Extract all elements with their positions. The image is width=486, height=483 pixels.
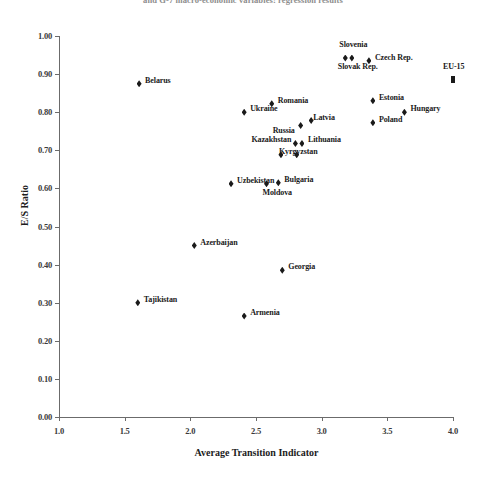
- x-tick-label: 1.0: [39, 426, 79, 436]
- scatter-plot: E/S Ratio Average Transition Indicator 0…: [0, 0, 486, 483]
- data-point: [349, 55, 354, 62]
- y-tick-label: 0.50: [26, 222, 52, 232]
- data-point: [280, 267, 285, 274]
- data-point-label: Moldova: [263, 188, 293, 197]
- y-tick-label: 0.40: [26, 260, 52, 270]
- data-point-label: Estonia: [379, 93, 404, 102]
- data-point-label: Slovak Rep.: [338, 62, 378, 71]
- y-tick-label: 1.00: [26, 31, 52, 41]
- data-point-label: Latvia: [313, 113, 335, 122]
- y-tick-mark: [55, 112, 59, 113]
- y-tick-label: 0.80: [26, 107, 52, 117]
- data-point: [370, 119, 375, 126]
- data-point-label: Romania: [278, 96, 308, 105]
- data-point-label: Bulgaria: [284, 175, 313, 184]
- y-tick-mark: [55, 265, 59, 266]
- data-point-label: Belarus: [145, 76, 171, 85]
- data-point-label: Slovenia: [339, 40, 367, 49]
- x-tick-mark: [190, 417, 191, 421]
- y-axis-title: E/S Ratio: [19, 146, 30, 266]
- data-point: [343, 55, 348, 62]
- x-tick-mark: [59, 417, 60, 421]
- data-point: [137, 80, 142, 87]
- data-point-label: Azerbaijan: [200, 238, 237, 247]
- x-tick-mark: [322, 417, 323, 421]
- x-tick-label: 3.5: [367, 426, 407, 436]
- y-tick-mark: [55, 150, 59, 151]
- y-axis-line: [59, 36, 60, 418]
- y-tick-mark: [55, 379, 59, 380]
- data-point: [451, 76, 455, 83]
- y-tick-label: 0.10: [26, 374, 52, 384]
- data-point-label: Russia: [273, 126, 295, 135]
- y-tick-mark: [55, 303, 59, 304]
- data-point-label: Ukraine: [250, 104, 277, 113]
- data-point-label: Kazakhstan: [251, 135, 291, 144]
- y-tick-label: 0.90: [26, 69, 52, 79]
- x-tick-mark: [453, 417, 454, 421]
- data-point: [402, 109, 407, 116]
- x-tick-mark: [256, 417, 257, 421]
- y-tick-mark: [55, 341, 59, 342]
- data-point-label: Georgia: [288, 262, 315, 271]
- data-point-label: Tajikistan: [144, 295, 177, 304]
- data-point: [242, 109, 247, 116]
- data-point: [370, 97, 375, 104]
- y-tick-mark: [55, 36, 59, 37]
- data-point: [229, 180, 234, 187]
- x-tick-label: 1.5: [105, 426, 145, 436]
- data-point: [242, 313, 247, 320]
- data-point: [135, 299, 140, 306]
- x-axis-title: Average Transition Indicator: [59, 447, 454, 458]
- y-tick-label: 0.70: [26, 145, 52, 155]
- y-tick-mark: [55, 188, 59, 189]
- y-tick-mark: [55, 227, 59, 228]
- data-point-label: Lithuania: [308, 135, 341, 144]
- x-tick-mark: [387, 417, 388, 421]
- x-tick-label: 3.0: [302, 426, 342, 436]
- y-tick-mark: [55, 74, 59, 75]
- y-tick-label: 0.30: [26, 298, 52, 308]
- x-tick-label: 2.5: [236, 426, 276, 436]
- data-point: [192, 242, 197, 249]
- x-tick-mark: [125, 417, 126, 421]
- data-point-label: Poland: [379, 115, 402, 124]
- data-point-label: Hungary: [410, 104, 440, 113]
- chart-page: and G-7 macro-economic variables: regres…: [0, 0, 486, 483]
- data-point: [276, 179, 281, 186]
- x-tick-label: 2.0: [170, 426, 210, 436]
- y-tick-label: 0.60: [26, 183, 52, 193]
- data-point: [298, 122, 303, 129]
- data-point-label: Armenia: [250, 308, 280, 317]
- data-point-label: Czech Rep.: [375, 53, 413, 62]
- x-tick-label: 4.0: [433, 426, 473, 436]
- y-tick-label: 0.20: [26, 336, 52, 346]
- y-tick-label: 0.00: [26, 412, 52, 422]
- data-point-label: EU-15: [443, 62, 464, 71]
